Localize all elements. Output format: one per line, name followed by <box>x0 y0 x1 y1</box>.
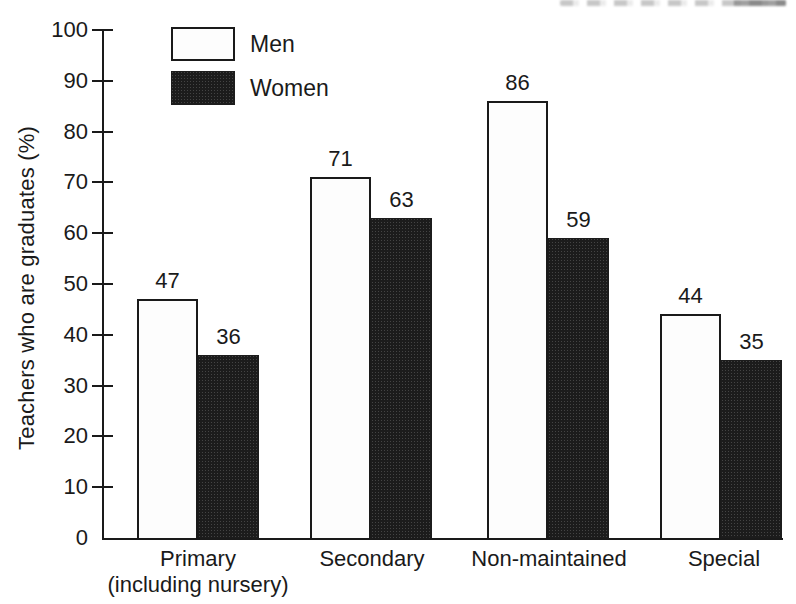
legend: MenWomen <box>0 0 796 120</box>
bar-women-1 <box>371 218 432 538</box>
y-tick-label-50: 50 <box>24 271 88 297</box>
x-axis-line <box>102 538 783 540</box>
y-tick-label-10: 10 <box>24 474 88 500</box>
y-tick-label-70: 70 <box>24 169 88 195</box>
bar-women-2 <box>548 238 609 538</box>
figure: Teachers who are graduates (%) 010203040… <box>0 0 796 604</box>
bar-value-women-3: 35 <box>701 329 796 355</box>
y-tick-label-80: 80 <box>24 119 88 145</box>
bar-value-women-0: 36 <box>178 324 279 350</box>
category-label-3: Special <box>584 546 796 572</box>
bar-value-women-1: 63 <box>351 187 452 213</box>
y-tick-label-30: 30 <box>24 373 88 399</box>
bar-value-women-2: 59 <box>528 207 629 233</box>
y-tick-label-60: 60 <box>24 220 88 246</box>
bar-value-men-3: 44 <box>640 283 741 309</box>
bar-value-men-0: 47 <box>117 268 218 294</box>
legend-label-men: Men <box>250 27 295 61</box>
y-tick-label-40: 40 <box>24 322 88 348</box>
category-label-line: Special <box>584 546 796 572</box>
bar-women-3 <box>721 360 782 538</box>
y-tick-label-20: 20 <box>24 423 88 449</box>
bar-women-0 <box>198 355 259 538</box>
legend-swatch-men <box>171 27 235 61</box>
category-label-line: (including nursery) <box>58 572 338 598</box>
bar-men-2 <box>487 101 548 538</box>
bar-value-men-1: 71 <box>290 146 391 172</box>
legend-label-women: Women <box>250 71 329 105</box>
legend-swatch-women <box>171 71 235 105</box>
bar-men-1 <box>310 177 371 538</box>
